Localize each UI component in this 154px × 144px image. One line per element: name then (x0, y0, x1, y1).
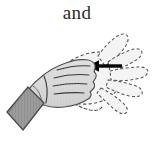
figure-caption: and (0, 1, 154, 25)
gesture-figure: and (0, 0, 154, 144)
gesture-illustration (0, 26, 154, 144)
